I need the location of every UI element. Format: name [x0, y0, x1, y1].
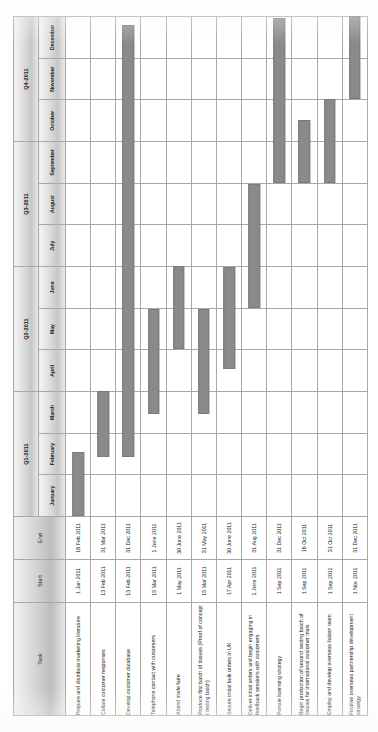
timeline-cell	[242, 475, 267, 517]
timeline-cell	[191, 142, 216, 184]
timeline-cell	[216, 433, 241, 475]
task-name-cell: Secure initial bulk orders in UK	[216, 603, 241, 716]
timeline-cell	[317, 350, 342, 392]
gantt-bar[interactable]	[148, 309, 160, 415]
timeline-cell	[166, 350, 191, 392]
timeline-cell	[191, 183, 216, 225]
task-name-cell: Prepare and distribute marketing literat…	[66, 603, 91, 716]
timeline-cell	[216, 142, 241, 184]
timeline-cell	[91, 17, 116, 59]
task-name-cell: Begin production of second testing batch…	[292, 603, 317, 716]
task-end-date-cell: 1 June 2011	[141, 517, 166, 560]
quarter-header-q2: Q2-2011	[14, 267, 39, 392]
gantt-bar[interactable]	[349, 16, 361, 99]
timeline-cell	[292, 350, 317, 392]
timeline-cell	[191, 225, 216, 267]
timeline-cell	[141, 225, 166, 267]
timeline-cell	[317, 308, 342, 350]
timeline-cell	[66, 100, 91, 142]
timeline-cell	[242, 58, 267, 100]
gantt-bar[interactable]	[72, 452, 84, 516]
timeline-cell	[91, 225, 116, 267]
month-header-february: February	[39, 433, 66, 475]
month-header-september: September	[39, 142, 66, 184]
timeline-cell	[292, 58, 317, 100]
timeline-cell	[342, 308, 367, 350]
task-end-date-cell: 31 Dec 2011	[267, 517, 292, 560]
timeline-cell	[292, 225, 317, 267]
task-name-cell: Develop customer database	[116, 603, 141, 716]
task-start-date-cell: 17 Apr 2011	[216, 560, 241, 603]
timeline-cell	[141, 392, 166, 434]
timeline-cell	[166, 183, 191, 225]
timeline-cell	[216, 100, 241, 142]
timeline-cell	[267, 308, 292, 350]
table-row[interactable]: Telephone contact with customers15 Mar 2…	[141, 17, 166, 716]
task-start-date-cell: 15 Mar 2011	[141, 560, 166, 603]
timeline-cell	[342, 392, 367, 434]
task-name-cell: Produce first batch of tissues (Proof of…	[191, 603, 216, 716]
timeline-cell	[191, 392, 216, 434]
timeline-cell	[342, 142, 367, 184]
gantt-bar[interactable]	[97, 391, 109, 457]
gantt-bar[interactable]	[299, 120, 311, 183]
table-row[interactable]: Prepare and distribute marketing literat…	[66, 17, 91, 716]
timeline-cell	[141, 433, 166, 475]
table-row[interactable]: Secure initial bulk orders in UK17 Apr 2…	[216, 17, 241, 716]
timeline-cell	[317, 142, 342, 184]
timeline-cell	[342, 267, 367, 309]
timeline-cell	[216, 17, 241, 59]
timeline-cell	[166, 475, 191, 517]
timeline-cell	[242, 142, 267, 184]
timeline-cell	[242, 17, 267, 59]
timeline-cell	[242, 100, 267, 142]
gantt-bar[interactable]	[324, 99, 336, 182]
column-header-start: Start	[14, 560, 66, 603]
timeline-cell	[292, 392, 317, 434]
task-start-date-cell: 13 Feb 2011	[91, 560, 116, 603]
timeline-cell	[66, 225, 91, 267]
table-row[interactable]: Deliver initial orders and begin engagin…	[242, 17, 267, 716]
timeline-cell	[342, 58, 367, 100]
timeline-cell	[216, 58, 241, 100]
timeline-cell	[267, 267, 292, 309]
table-row[interactable]: Develop customer database13 Feb 201131 D…	[116, 17, 141, 716]
gantt-bar[interactable]	[173, 266, 185, 349]
table-row[interactable]: Pursue licensing strategy1 Sep 201131 De…	[267, 17, 292, 716]
table-row[interactable]: Produce first batch of tissues (Proof of…	[191, 17, 216, 716]
timeline-cell	[91, 58, 116, 100]
gantt-bar[interactable]	[123, 25, 135, 457]
timeline-cell	[342, 433, 367, 475]
task-end-date-cell: 31 Dec 2011	[116, 517, 141, 560]
timeline-cell	[166, 100, 191, 142]
table-row[interactable]: Attend trade faire1 May 201130 June 2011	[166, 17, 191, 716]
timeline-cell	[242, 350, 267, 392]
timeline-cell	[141, 17, 166, 59]
timeline-cell	[141, 100, 166, 142]
timeline-cell	[342, 350, 367, 392]
timeline-cell	[116, 433, 141, 475]
gantt-bar[interactable]	[223, 267, 235, 369]
timeline-cell	[342, 183, 367, 225]
column-header-end: End	[14, 517, 66, 560]
table-row[interactable]: Employ and develop overseas liaison team…	[317, 17, 342, 716]
timeline-cell	[292, 142, 317, 184]
gantt-bar[interactable]	[198, 309, 210, 415]
timeline-cell	[166, 58, 191, 100]
table-row[interactable]: Finalise overseas partnership developmen…	[342, 17, 367, 716]
table-row[interactable]: Collate customer responses13 Feb 201131 …	[91, 17, 116, 716]
timeline-cell	[292, 308, 317, 350]
task-end-date-cell: 30 June 2011	[216, 517, 241, 560]
timeline-cell	[317, 392, 342, 434]
timeline-cell	[242, 308, 267, 350]
table-row[interactable]: Begin production of second testing batch…	[292, 17, 317, 716]
timeline-cell	[317, 225, 342, 267]
task-start-date-cell: 1 May 2011	[166, 560, 191, 603]
task-name-cell: Pursue licensing strategy	[267, 603, 292, 716]
timeline-cell	[292, 267, 317, 309]
month-header-december: December	[39, 17, 66, 59]
gantt-table-body: Prepare and distribute marketing literat…	[66, 17, 368, 716]
gantt-bar[interactable]	[274, 18, 286, 183]
gantt-bar[interactable]	[248, 184, 260, 308]
timeline-cell	[267, 475, 292, 517]
